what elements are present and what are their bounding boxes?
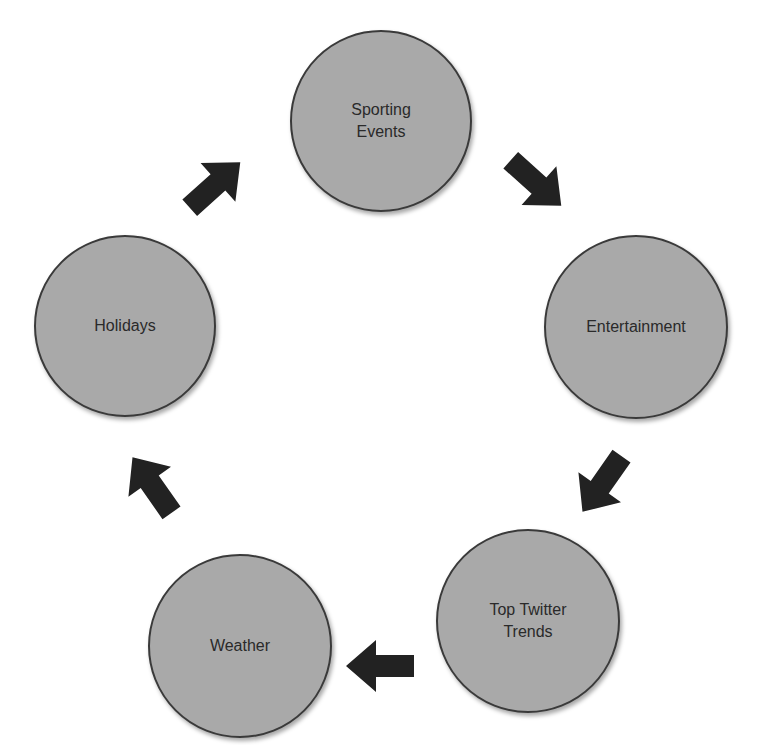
node-label: Top Twitter Trends [489, 599, 566, 643]
node-label: Weather [210, 635, 270, 657]
arrow-holidays-to-sporting-events-icon [172, 143, 257, 227]
arrow-entertainment-to-twitter-icon [561, 441, 643, 527]
node-label: Holidays [94, 315, 155, 337]
node-label: Sporting Events [351, 99, 411, 143]
node-top-twitter-trends: Top Twitter Trends [436, 529, 620, 713]
node-holidays: Holidays [34, 235, 216, 417]
node-sporting-events: Sporting Events [290, 30, 472, 212]
arrow-twitter-to-weather-icon [346, 640, 414, 692]
node-entertainment: Entertainment [544, 235, 728, 419]
arrow-sporting-to-entertainment-icon [493, 141, 578, 225]
node-weather: Weather [148, 554, 332, 738]
arrow-weather-to-holidays-icon [111, 442, 193, 528]
node-label: Entertainment [586, 316, 686, 338]
